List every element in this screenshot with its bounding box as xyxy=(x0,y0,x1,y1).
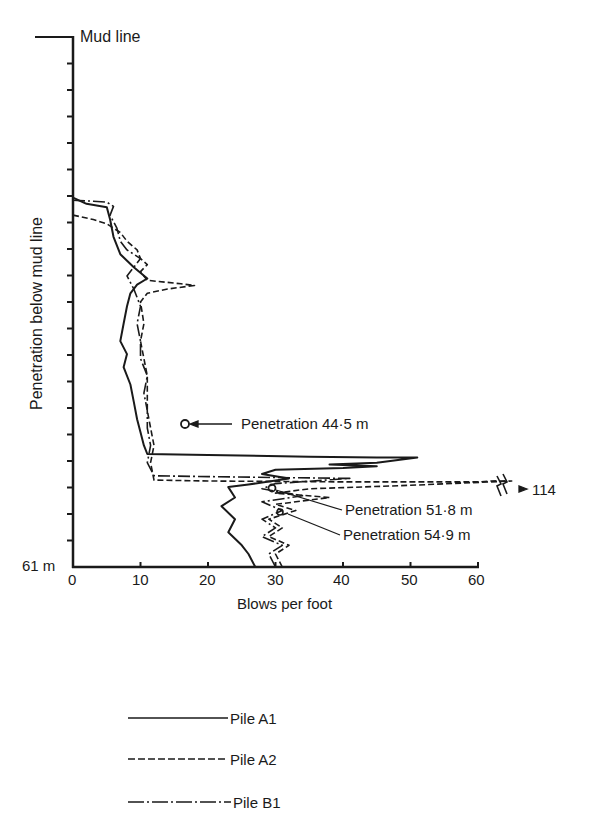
legend-dash-dot-line-icon xyxy=(128,800,231,804)
mud-line-label: Mud line xyxy=(80,28,140,46)
legend-label: Pile A1 xyxy=(230,710,277,727)
bottom-depth-label: 61 m xyxy=(22,557,55,574)
leader-54-9 xyxy=(288,514,340,535)
legend-label: Pile A2 xyxy=(230,751,277,768)
x-tick-label-10: 10 xyxy=(132,571,149,588)
x-tick-label-0: 0 xyxy=(68,571,76,588)
x-tick-label-40: 40 xyxy=(333,571,350,588)
x-tick-label-50: 50 xyxy=(401,571,418,588)
x-tick-label-60: 60 xyxy=(468,571,485,588)
legend-solid-line-icon xyxy=(128,716,228,720)
legend-item-pile-a2: Pile A2 xyxy=(128,749,277,769)
x-axis-title: Blows per foot xyxy=(237,595,332,612)
legend-dashed-line-icon xyxy=(128,757,228,761)
series-pile-b1 xyxy=(73,200,350,567)
marker-44-5 xyxy=(181,420,189,428)
leader-51-8 xyxy=(276,490,342,510)
x-tick-label-30: 30 xyxy=(267,571,284,588)
axes xyxy=(35,36,479,568)
annotation-54-9: Penetration 54·9 m xyxy=(343,526,471,543)
y-axis-title: Penetration below mud line xyxy=(28,217,46,410)
legend-item-pile-b1: Pile B1 xyxy=(128,792,281,812)
axis-break-icon xyxy=(497,474,507,496)
annotation-51-8: Penetration 51·8 m xyxy=(345,501,473,518)
arrowhead-44-5 xyxy=(190,421,198,427)
annotation-44-5: Penetration 44·5 m xyxy=(241,415,369,432)
off-scale-value: 114 xyxy=(532,481,556,498)
x-tick-label-20: 20 xyxy=(199,571,216,588)
legend-item-pile-a1: Pile A1 xyxy=(128,708,277,728)
legend-label: Pile B1 xyxy=(233,794,281,811)
arrowhead-114 xyxy=(519,486,527,492)
